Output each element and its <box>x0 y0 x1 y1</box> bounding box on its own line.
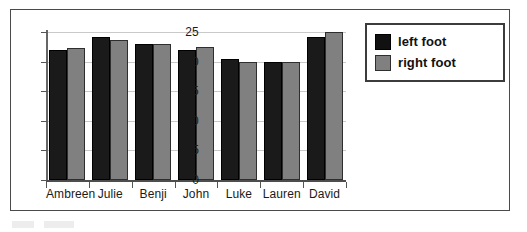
scan-artifact <box>44 221 74 228</box>
legend-item-right-foot: right foot <box>375 52 495 73</box>
x-axis-label-benji: Benji <box>132 188 175 200</box>
gray-swatch-icon <box>375 55 391 71</box>
bar-lauren-right-foot <box>282 62 300 180</box>
y-axis-tick <box>41 32 47 33</box>
x-axis-label-ambreen: Ambreen <box>46 188 89 200</box>
y-axis-label: 15 <box>165 85 199 97</box>
x-axis-tick <box>346 182 347 188</box>
legend-label-left-foot: left foot <box>398 34 447 49</box>
bar-luke-right-foot <box>239 62 257 180</box>
black-swatch-icon <box>375 34 391 50</box>
bar-julie-right-foot <box>110 40 128 180</box>
figure-frame: AmbreenJulieBenjiJohnLukeLaurenDavid 051… <box>10 9 510 211</box>
y-axis-tick <box>41 150 47 151</box>
x-axis-label-lauren: Lauren <box>260 188 303 200</box>
bar-ambreen-right-foot <box>67 48 85 180</box>
x-axis-label-david: David <box>303 188 346 200</box>
bar-luke-left-foot <box>221 59 239 180</box>
bar-ambreen-left-foot <box>49 50 67 180</box>
y-axis-label: 25 <box>165 26 199 38</box>
y-axis-label: 20 <box>165 56 199 68</box>
y-axis-tick <box>41 62 47 63</box>
y-axis-tick <box>41 121 47 122</box>
y-axis-line <box>46 30 48 182</box>
chart-legend: left foot right foot <box>365 23 505 82</box>
bar-david-left-foot <box>307 37 325 180</box>
legend-label-right-foot: right foot <box>398 55 456 70</box>
bar-julie-left-foot <box>92 37 110 180</box>
y-axis-label: 10 <box>165 115 199 127</box>
y-axis-label: 5 <box>165 144 199 156</box>
y-axis-tick <box>41 91 47 92</box>
x-axis-label-john: John <box>175 188 218 200</box>
bar-benji-left-foot <box>135 44 153 180</box>
y-axis-label: 0 <box>165 174 199 186</box>
x-axis-label-luke: Luke <box>217 188 260 200</box>
scan-artifact <box>12 221 34 228</box>
x-axis-label-julie: Julie <box>89 188 132 200</box>
bar-david-right-foot <box>325 32 343 180</box>
legend-item-left-foot: left foot <box>375 31 495 52</box>
chart-plot-area: AmbreenJulieBenjiJohnLukeLaurenDavid <box>46 30 346 182</box>
y-axis-tick <box>41 180 47 181</box>
bar-lauren-left-foot <box>264 62 282 180</box>
